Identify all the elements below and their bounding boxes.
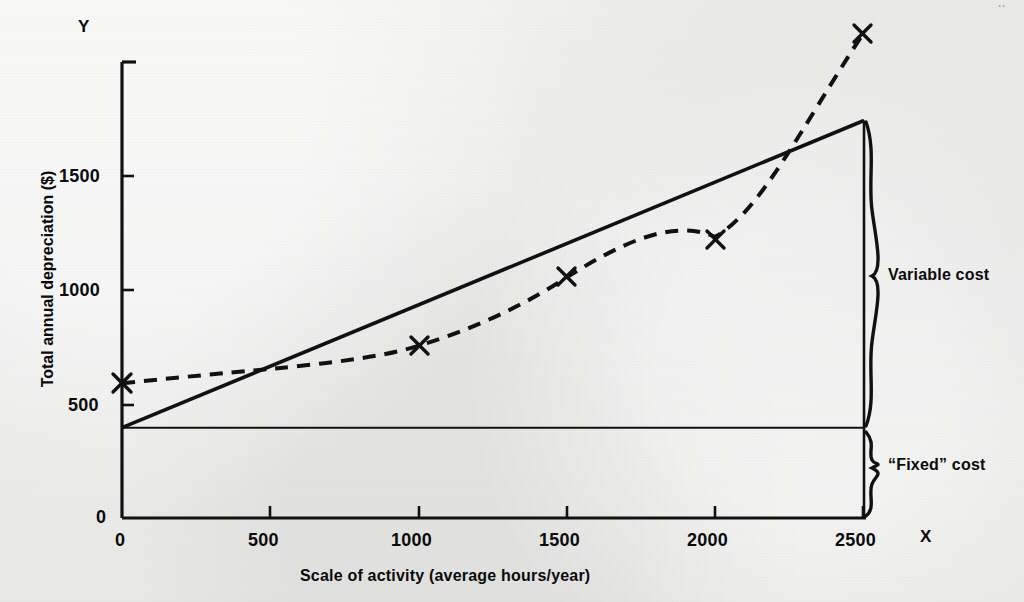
data-point-marker-3 — [707, 231, 724, 248]
chart-figure: .. Y X 1500 1000 500 0 0 500 1000 1500 2… — [0, 0, 1024, 602]
series-total-cost-line — [122, 121, 864, 428]
brace-variable-cost — [866, 122, 878, 426]
data-point-marker-2 — [558, 268, 575, 285]
data-point-marker-4 — [854, 25, 871, 42]
brace-fixed-cost — [866, 432, 878, 516]
series-actual-depreciation-curve — [122, 34, 863, 384]
x-axis-ticks — [270, 506, 863, 518]
plot-svg — [0, 0, 1024, 602]
y-axis-ticks — [122, 176, 134, 405]
data-point-markers — [113, 25, 871, 392]
